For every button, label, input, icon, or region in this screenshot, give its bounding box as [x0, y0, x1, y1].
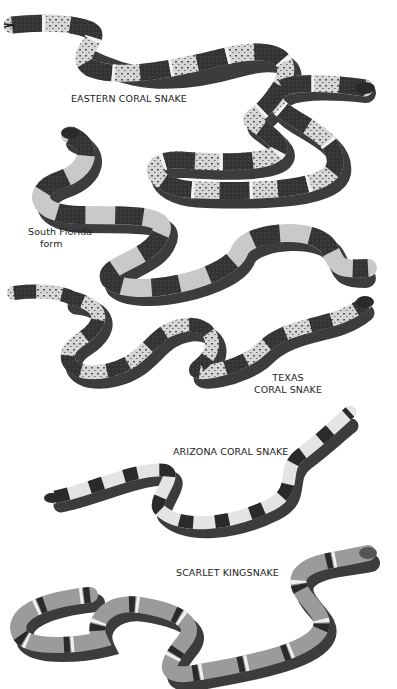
- texas-label-line1: TEXAS: [248, 372, 328, 384]
- south-florida-label-line2: form: [28, 238, 92, 250]
- south-florida-form-label: South Florida form: [28, 226, 92, 250]
- arizona-coral-snake: [44, 412, 351, 531]
- eastern-coral-snake-label: EASTERN CORAL SNAKE: [71, 93, 187, 105]
- texas-label-line2: CORAL SNAKE: [248, 384, 328, 396]
- texas-coral-snake: [14, 292, 374, 381]
- south-florida-label-line1: South Florida: [28, 226, 92, 238]
- south-florida-coral-snake: [41, 127, 368, 296]
- texas-coral-snake-label: TEXAS CORAL SNAKE: [248, 372, 328, 396]
- arizona-coral-snake-label: ARIZONA CORAL SNAKE: [173, 446, 288, 458]
- scarlet-kingsnake-label: SCARLET KINGSNAKE: [176, 567, 279, 579]
- snakes-illustration: [0, 0, 397, 689]
- illustration-plate: EASTERN CORAL SNAKE South Florida form T…: [0, 0, 397, 689]
